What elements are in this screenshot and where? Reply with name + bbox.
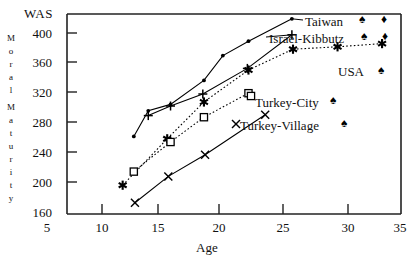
data-point-square bbox=[200, 114, 207, 121]
data-point-plus bbox=[198, 90, 207, 99]
axis-frame bbox=[67, 14, 401, 214]
data-point-cross bbox=[131, 199, 139, 207]
data-point-cross bbox=[232, 120, 240, 128]
data-point-square bbox=[167, 138, 174, 145]
legend-label-israel-kibbutz[interactable]: Israel-Kibbutz bbox=[269, 32, 344, 45]
scan-artifact-mark: ♠ bbox=[361, 30, 367, 42]
data-point-asterisk bbox=[200, 97, 208, 106]
chart-figure: WAS M o r a l M a t u r i t y 160 200 24… bbox=[0, 0, 417, 262]
data-point-square bbox=[247, 92, 254, 99]
data-point-plus bbox=[166, 102, 175, 111]
legend-label-turkey-city[interactable]: Turkey-City bbox=[255, 96, 319, 109]
scan-artifact-mark: ♠ bbox=[330, 94, 336, 106]
data-series-layer bbox=[119, 17, 386, 207]
scan-artifact-mark: ♠ bbox=[378, 64, 384, 76]
legend-label-taiwan[interactable]: Taiwan bbox=[305, 15, 343, 28]
scan-artifact-mark: ♦ bbox=[382, 30, 388, 42]
data-point-dot bbox=[202, 79, 206, 83]
legend-label-turkey-village[interactable]: Turkey-Village bbox=[240, 119, 319, 132]
plot-canvas bbox=[0, 0, 417, 262]
scan-artifact-mark: ♠ bbox=[359, 13, 365, 25]
legend-label-usa[interactable]: USA bbox=[338, 65, 364, 78]
data-point-cross bbox=[201, 151, 209, 159]
x-axis-ticks bbox=[102, 204, 348, 214]
scan-artifact-mark: ♠ bbox=[341, 117, 347, 129]
data-point-dot bbox=[247, 39, 251, 43]
data-point-cross bbox=[164, 172, 172, 180]
series-usa bbox=[119, 39, 386, 190]
y-axis-ticks bbox=[67, 33, 77, 182]
data-point-square bbox=[130, 168, 137, 175]
scan-artifact-mark: ♦ bbox=[381, 13, 387, 25]
data-point-dot bbox=[132, 135, 136, 139]
data-point-dot bbox=[221, 54, 225, 58]
data-point-plus bbox=[144, 111, 153, 120]
legend-leader-line bbox=[292, 19, 303, 20]
